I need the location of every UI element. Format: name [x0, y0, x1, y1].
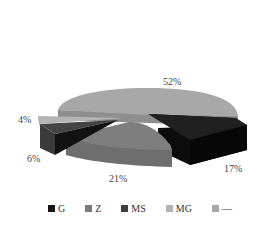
legend-item-g: G [48, 203, 65, 214]
legend-item-mg: MG [166, 203, 192, 214]
legend-label-g: G [58, 203, 65, 214]
legend-label-z: Z [95, 203, 101, 214]
legend-item-ms: MS [121, 203, 145, 214]
legend-swatch-g [48, 205, 55, 212]
label-4: 4% [18, 114, 31, 125]
label-6: 6% [27, 153, 40, 164]
legend-swatch-z [85, 205, 92, 212]
legend-item-dash: — [212, 203, 232, 214]
legend-swatch-dash [212, 205, 219, 212]
pie-chart [0, 0, 267, 232]
legend-label-mg: MG [176, 203, 192, 214]
legend-swatch-mg [166, 205, 173, 212]
legend-label-dash: — [222, 203, 232, 214]
label-21: 21% [109, 173, 127, 184]
label-52: 52% [163, 76, 181, 87]
label-17: 17% [224, 163, 242, 174]
legend-label-ms: MS [131, 203, 145, 214]
chart-legend: G Z MS MG — [48, 201, 258, 215]
legend-swatch-ms [121, 205, 128, 212]
legend-item-z: Z [85, 203, 101, 214]
